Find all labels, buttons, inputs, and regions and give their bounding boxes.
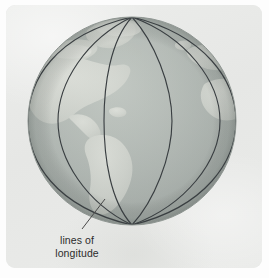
lines-of-longitude-label: lines of longitude [28,234,126,259]
illustration-card: lines of longitude [6,5,262,268]
figure-root: lines of longitude [0,0,269,278]
leader-line [82,199,105,229]
annotation-layer [6,5,262,268]
